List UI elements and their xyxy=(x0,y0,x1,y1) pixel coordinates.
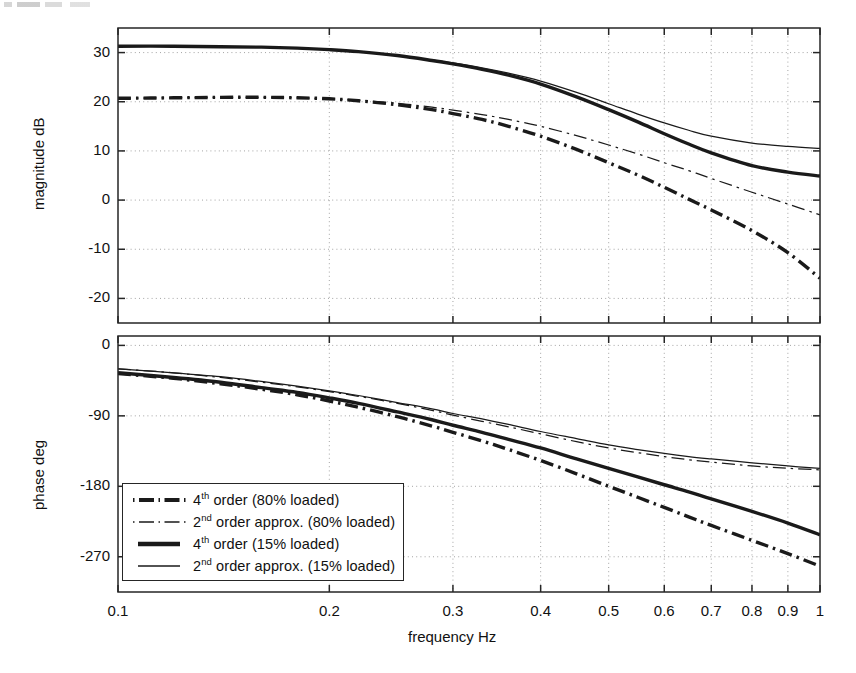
legend-label-1: 2nd order approx. (80% loaded) xyxy=(193,514,395,530)
ytick-label: 20 xyxy=(52,92,110,109)
ytick-label: 10 xyxy=(52,141,110,158)
ytick-label: 0 xyxy=(52,190,110,207)
ytick-label: -20 xyxy=(52,288,110,305)
legend-swatch-thick-solid xyxy=(132,537,186,551)
legend-label-3: 2nd order approx. (15% loaded) xyxy=(193,558,395,574)
xtick-label: 0.4 xyxy=(516,602,566,619)
legend-swatch-thick-dashdot xyxy=(132,493,186,507)
magnitude-gridlines xyxy=(118,28,820,323)
legend-label-0: 4th order (80% loaded) xyxy=(193,492,339,508)
xtick-label: 0.1 xyxy=(93,602,143,619)
bode-plot-figure: magnitude dB phase deg frequency Hz 3020… xyxy=(0,0,856,673)
legend-item[interactable]: 2nd order approx. (80% loaded) xyxy=(123,511,403,533)
ytick-label: -180 xyxy=(52,476,110,493)
ytick-label: 30 xyxy=(52,43,110,60)
xtick-label: 0.6 xyxy=(639,602,689,619)
xtick-label: 1 xyxy=(795,602,845,619)
x-axis-label: frequency Hz xyxy=(408,628,496,645)
ytick-label: -270 xyxy=(52,547,110,564)
xtick-label: 0.3 xyxy=(428,602,478,619)
curve-thin-dashdot xyxy=(118,97,820,215)
legend-item[interactable]: 2nd order approx. (15% loaded) xyxy=(123,555,403,577)
legend-swatch-thin-solid xyxy=(132,559,186,573)
xtick-label: 0.5 xyxy=(584,602,634,619)
legend-label-2: 4th order (15% loaded) xyxy=(193,536,339,552)
phase-axis-label: phase deg xyxy=(30,440,47,510)
magnitude-axis-label: magnitude dB xyxy=(30,117,47,210)
ytick-label: 0 xyxy=(52,335,110,352)
legend[interactable]: 4th order (80% loaded) 2nd order approx.… xyxy=(122,483,404,581)
legend-item[interactable]: 4th order (80% loaded) xyxy=(123,489,403,511)
ytick-label: -10 xyxy=(52,239,110,256)
ytick-label: -90 xyxy=(52,406,110,423)
legend-item[interactable]: 4th order (15% loaded) xyxy=(123,533,403,555)
xtick-label: 0.2 xyxy=(304,602,354,619)
curve-thick-dashdot xyxy=(118,97,820,278)
legend-swatch-thin-dashdot xyxy=(132,515,186,529)
magnitude-curves xyxy=(118,46,820,278)
